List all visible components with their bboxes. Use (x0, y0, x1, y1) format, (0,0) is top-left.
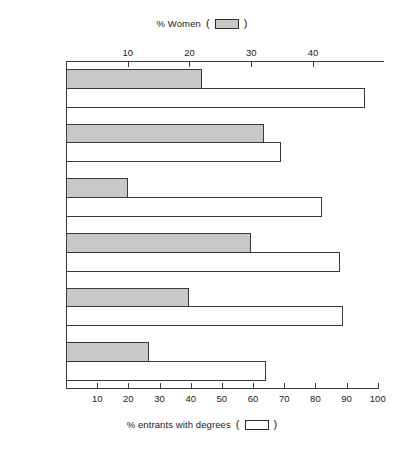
bottom-tick-mark (284, 383, 285, 388)
left-axis-line (66, 61, 67, 389)
bar-degrees-lbs (66, 88, 365, 108)
bottom-tick-label: 90 (341, 393, 352, 404)
legend-women: % Women ( ) (0, 18, 404, 29)
bottom-tick-mark (160, 383, 161, 388)
grouped-bar-chart: % Women ( ) % entrants with degrees ( ) … (0, 0, 404, 454)
bar-women-bradford (66, 288, 189, 308)
bottom-tick-mark (222, 383, 223, 388)
bar-women-durham (66, 124, 264, 144)
bottom-tick-label: 30 (154, 393, 165, 404)
bottom-tick-label: 50 (217, 393, 228, 404)
bar-women-cranfield (66, 178, 128, 198)
bottom-tick-label: 60 (248, 393, 259, 404)
bottom-tick-label: 40 (185, 393, 196, 404)
bar-women-city (66, 233, 251, 253)
legend-degrees-swatch-icon (245, 420, 269, 430)
top-tick-mark (128, 62, 129, 67)
bottom-tick-label: 80 (310, 393, 321, 404)
top-tick-label: 40 (308, 47, 319, 58)
top-tick-mark (251, 62, 252, 67)
legend-women-label: % Women (157, 18, 201, 29)
top-tick-label: 30 (246, 47, 257, 58)
bottom-tick-mark (378, 383, 379, 388)
bottom-tick-mark (347, 383, 348, 388)
bar-degrees-bradford (66, 306, 343, 326)
bottom-tick-label: 20 (123, 393, 134, 404)
bar-degrees-cranfield (66, 197, 322, 217)
top-tick-label: 10 (122, 47, 133, 58)
top-tick-mark (313, 62, 314, 67)
legend-women-swatch-icon (215, 19, 239, 29)
plot-area: 10203040 102030405060708090100 LBSDurham… (66, 61, 384, 389)
bottom-tick-mark (315, 383, 316, 388)
legend-degrees-label: % entrants with degrees (127, 419, 231, 430)
legend-degrees-close-paren: ) (274, 419, 278, 430)
bar-degrees-city (66, 252, 340, 272)
bottom-tick-label: 10 (92, 393, 103, 404)
bar-degrees-aston (66, 361, 266, 381)
legend-women-open-paren: ( (206, 18, 210, 29)
bar-degrees-durham (66, 142, 281, 162)
legend-women-close-paren: ) (244, 18, 248, 29)
bottom-tick-label: 100 (370, 393, 386, 404)
bar-women-lbs (66, 69, 202, 89)
top-tick-mark (189, 62, 190, 67)
bar-women-aston (66, 342, 149, 362)
top-tick-label: 20 (184, 47, 195, 58)
legend-degrees: % entrants with degrees ( ) (0, 419, 404, 430)
bottom-tick-label: 70 (279, 393, 290, 404)
legend-degrees-open-paren: ( (236, 419, 240, 430)
bottom-axis-line (66, 388, 379, 389)
bottom-tick-mark (128, 383, 129, 388)
bottom-tick-mark (97, 383, 98, 388)
bottom-tick-mark (191, 383, 192, 388)
bottom-tick-mark (253, 383, 254, 388)
top-axis-line (66, 61, 384, 62)
